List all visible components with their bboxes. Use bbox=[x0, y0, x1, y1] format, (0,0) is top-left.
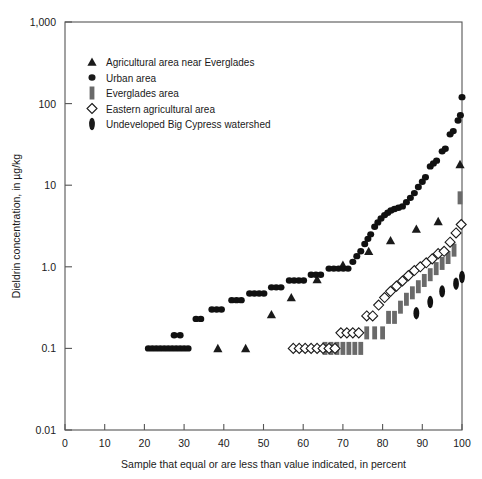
data-point bbox=[317, 272, 324, 278]
data-point bbox=[450, 128, 457, 134]
x-tick-label-100: 100 bbox=[453, 437, 471, 449]
data-point bbox=[412, 224, 421, 232]
data-point bbox=[287, 293, 296, 301]
legend-marker-triangle bbox=[87, 57, 96, 65]
legend-label-2: Everglades area bbox=[106, 88, 179, 99]
chart-svg: 0102030405060708090100Sample that equal … bbox=[0, 0, 482, 479]
x-tick-label-60: 60 bbox=[297, 437, 309, 449]
data-point bbox=[213, 344, 222, 352]
data-point bbox=[434, 262, 439, 275]
data-point bbox=[364, 247, 373, 255]
data-point bbox=[453, 278, 459, 290]
data-point bbox=[349, 259, 356, 265]
data-point bbox=[456, 219, 466, 229]
legend-label-3: Eastern agricultural area bbox=[106, 104, 215, 115]
data-point bbox=[372, 326, 377, 339]
y-tick-label-0.01: 0.01 bbox=[36, 424, 57, 436]
legend-marker-bar bbox=[90, 87, 95, 100]
data-point bbox=[386, 236, 395, 244]
data-point bbox=[398, 301, 403, 314]
data-point bbox=[410, 286, 415, 299]
data-point bbox=[457, 112, 464, 118]
data-point bbox=[364, 326, 369, 339]
y-tick-label-1.0: 1.0 bbox=[41, 261, 56, 273]
data-point bbox=[459, 94, 466, 100]
y-tick-label-10: 10 bbox=[44, 179, 56, 191]
data-point bbox=[277, 284, 284, 290]
y-tick-label-100: 100 bbox=[38, 98, 56, 110]
data-point bbox=[241, 344, 250, 352]
data-point bbox=[238, 297, 245, 303]
legend-marker-diamond bbox=[87, 104, 97, 114]
data-point bbox=[442, 146, 449, 152]
data-point bbox=[171, 332, 178, 338]
data-point bbox=[185, 345, 192, 351]
y-axis-title: Dieldrin concentration, in µg/kg bbox=[10, 154, 22, 299]
y-tick-label-1,000: 1,000 bbox=[30, 16, 56, 28]
x-tick-label-0: 0 bbox=[62, 437, 68, 449]
data-point bbox=[357, 248, 364, 254]
data-point bbox=[422, 274, 427, 287]
data-point bbox=[352, 342, 357, 355]
data-point bbox=[413, 307, 419, 319]
data-point bbox=[434, 217, 443, 225]
x-axis-title: Sample that equal or are less than value… bbox=[121, 458, 406, 470]
data-point bbox=[374, 300, 384, 310]
data-point bbox=[392, 311, 397, 324]
data-point bbox=[197, 316, 204, 322]
data-point bbox=[451, 228, 461, 238]
data-point bbox=[415, 184, 422, 190]
data-point bbox=[346, 342, 351, 355]
data-point bbox=[218, 306, 225, 312]
x-tick-label-80: 80 bbox=[377, 437, 389, 449]
data-point bbox=[267, 310, 276, 318]
data-point bbox=[455, 160, 464, 168]
data-point bbox=[428, 268, 433, 281]
data-point bbox=[459, 271, 465, 283]
legend-label-1: Urban area bbox=[106, 73, 156, 84]
legend-label-0: Agricultural area near Everglades bbox=[106, 57, 254, 68]
data-point bbox=[411, 190, 418, 196]
data-point bbox=[367, 231, 374, 237]
data-point bbox=[422, 174, 429, 180]
x-tick-label-50: 50 bbox=[258, 437, 270, 449]
data-point bbox=[368, 311, 378, 321]
x-tick-label-30: 30 bbox=[178, 437, 190, 449]
x-tick-label-70: 70 bbox=[337, 437, 349, 449]
data-point bbox=[440, 257, 445, 270]
x-tick-label-10: 10 bbox=[99, 437, 111, 449]
data-point bbox=[404, 293, 409, 306]
data-point bbox=[380, 326, 385, 339]
data-point bbox=[458, 191, 463, 204]
chart-figure: 0102030405060708090100Sample that equal … bbox=[0, 0, 482, 479]
data-point bbox=[354, 328, 364, 338]
legend-marker-oval bbox=[89, 118, 95, 130]
data-point bbox=[341, 342, 346, 355]
data-point bbox=[358, 342, 363, 355]
y-tick-label-0.1: 0.1 bbox=[41, 342, 56, 354]
data-point bbox=[386, 311, 391, 324]
x-tick-label-40: 40 bbox=[218, 437, 230, 449]
data-point bbox=[345, 265, 352, 271]
data-point bbox=[416, 280, 421, 293]
x-tick-label-90: 90 bbox=[416, 437, 428, 449]
data-point bbox=[427, 296, 433, 308]
legend-label-4: Undeveloped Big Cypress watershed bbox=[106, 119, 271, 130]
x-tick-label-20: 20 bbox=[139, 437, 151, 449]
legend-marker-circle bbox=[89, 74, 96, 80]
data-point bbox=[300, 277, 307, 283]
data-point bbox=[433, 157, 440, 163]
data-point bbox=[177, 332, 184, 338]
data-point bbox=[260, 290, 267, 296]
data-point bbox=[439, 285, 445, 297]
